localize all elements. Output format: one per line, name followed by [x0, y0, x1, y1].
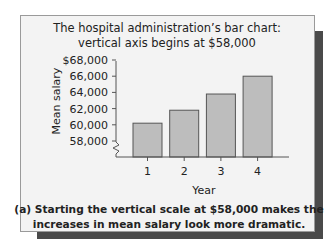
caption-line-1: (a) Starting the vertical scale at $58,0…	[14, 203, 323, 215]
chart-title-line-2: vertical axis begins at $58,000	[78, 36, 256, 50]
bar-year-3	[206, 94, 235, 157]
bar-year-2	[170, 110, 199, 157]
bar-chart: The hospital administration’s bar chart:…	[0, 0, 332, 250]
y-tick-label: $68,000	[63, 54, 109, 67]
y-tick-label: 64,000	[70, 86, 109, 99]
x-tick-label: 3	[217, 165, 224, 178]
y-axis-label: Mean salary	[50, 67, 63, 134]
y-tick-label: 58,000	[70, 135, 109, 148]
x-tick-label: 4	[254, 165, 261, 178]
caption-line-2: increases in mean salary look more drama…	[33, 218, 306, 230]
bar-year-4	[243, 76, 272, 157]
y-tick-label: 66,000	[70, 70, 109, 83]
x-axis-label: Year	[191, 184, 216, 197]
x-tick-label: 2	[181, 165, 188, 178]
bar-year-1	[133, 123, 162, 157]
chart-title-line-1: The hospital administration’s bar chart:	[52, 21, 281, 35]
x-tick-label: 1	[144, 165, 151, 178]
axis-break-icon	[113, 142, 119, 157]
y-tick-label: 62,000	[70, 103, 109, 116]
y-tick-label: 60,000	[70, 119, 109, 132]
